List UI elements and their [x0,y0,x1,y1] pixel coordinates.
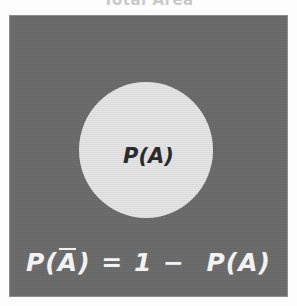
figure-title: Total Area [0,0,297,7]
complement-formula-label: P(A) = 1 − P(A) [10,248,287,277]
formula-lhs-p: P [26,248,45,277]
formula-rhs-pa: P(A) [206,248,271,277]
formula-lhs-close-paren: ) [78,248,90,277]
formula-lhs-open-paren: ( [45,248,57,277]
event-a-probability-label: P(A) [10,144,287,168]
sample-space-rectangle: P(A) P(A) = 1 − P(A) [10,16,287,296]
formula-minus-sign: − [163,248,185,277]
formula-equals-sign: = [101,248,123,277]
formula-a-complement: A [58,248,78,277]
formula-one: 1 [134,248,152,277]
probability-complement-figure: Total Area P(A) P(A) = 1 − P(A) [0,0,297,306]
